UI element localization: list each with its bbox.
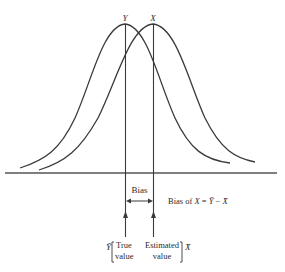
bias-double-arrow-icon [126,199,153,204]
arrow-up-icon [151,211,156,218]
estimated-value-line2: value [153,251,172,261]
arrow-up-icon [123,211,128,218]
true-value-symbol: Ȳ [106,242,112,252]
true-value-bracket [112,242,114,262]
bias-formula: Bias of X = Ȳ − X̄ [168,196,228,206]
peak-label-y: Y [122,13,128,23]
peak-label-x: X [149,13,156,23]
true-value-line2: value [115,251,134,261]
estimated-value-symbol: X̄ [184,242,191,252]
bias-label: Bias [131,185,147,195]
estimated-value-line1: Estimated [145,240,180,250]
true-value-line1: True [116,240,132,250]
bias-diagram: Y X Bias Bias of X = Ȳ − X̄ Ȳ True value… [0,0,285,272]
estimated-value-bracket [180,242,182,262]
